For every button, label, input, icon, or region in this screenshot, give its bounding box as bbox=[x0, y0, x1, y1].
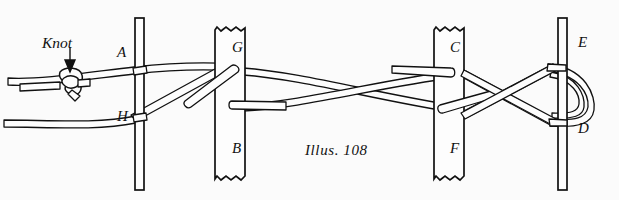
lashing-diagram-svg: Knot A H G B C F E D Illus. 108 bbox=[0, 0, 619, 200]
label-D: D bbox=[577, 120, 589, 136]
label-B: B bbox=[232, 140, 241, 156]
cord-end-C bbox=[392, 66, 455, 77]
post-ed bbox=[558, 18, 567, 190]
knot-inner-loop bbox=[62, 76, 79, 88]
label-H: H bbox=[116, 108, 129, 124]
figure-caption: Illus. 108 bbox=[304, 142, 368, 158]
cord-cross-right-of-cf bbox=[461, 64, 557, 125]
cord-end-B bbox=[229, 101, 286, 110]
cord-cross-strand-b bbox=[461, 64, 557, 119]
post-left-narrow-body bbox=[135, 18, 144, 190]
illustration-figure: Knot A H G B C F E D Illus. 108 bbox=[0, 0, 619, 200]
cord-A-crossing-post bbox=[133, 66, 147, 75]
label-F: F bbox=[449, 140, 460, 156]
knot-tail-left bbox=[20, 82, 60, 91]
label-G: G bbox=[232, 39, 243, 55]
cord-end-C-body bbox=[392, 66, 455, 77]
label-E: E bbox=[577, 34, 587, 50]
knot-tail-right bbox=[78, 79, 90, 87]
label-C: C bbox=[450, 39, 461, 55]
post-left-narrow bbox=[135, 18, 144, 190]
cord-end-B-body bbox=[229, 101, 286, 110]
overhand-knot bbox=[20, 68, 90, 101]
label-knot: Knot bbox=[41, 34, 73, 51]
label-A: A bbox=[116, 44, 127, 60]
cord-H-crossing-post bbox=[133, 113, 147, 122]
cord-bight-top-crossing bbox=[547, 64, 566, 71]
cord-bight-bottom-crossing bbox=[549, 119, 567, 126]
post-ed-body bbox=[558, 18, 567, 190]
